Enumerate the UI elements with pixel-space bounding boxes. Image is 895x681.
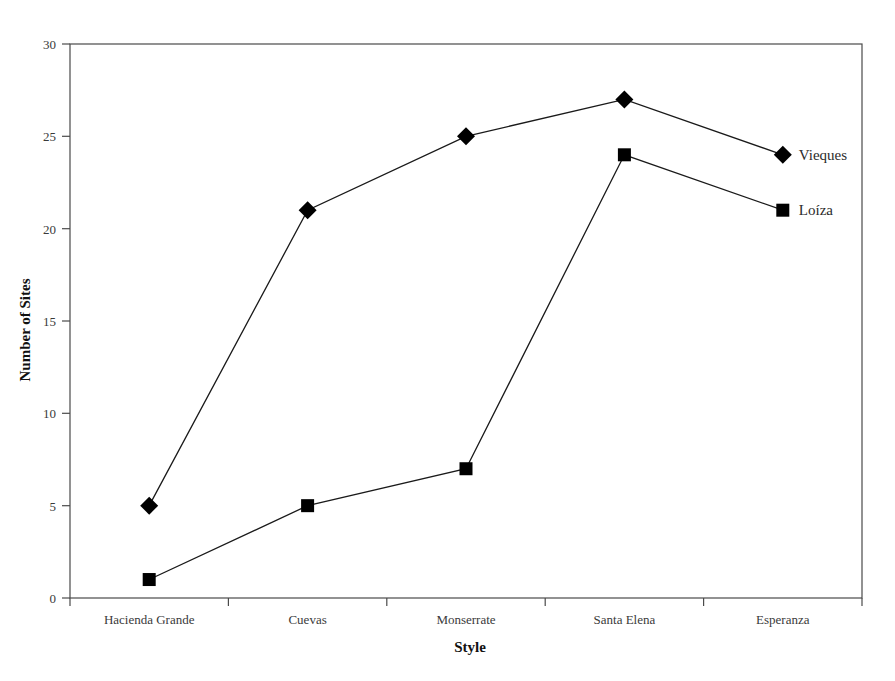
x-axis-title: Style — [454, 639, 486, 655]
y-axis-title: Number of Sites — [17, 278, 33, 381]
data-point-marker-diamond — [140, 497, 158, 515]
data-point-marker-square — [460, 462, 473, 475]
series-vieques — [140, 90, 792, 514]
series-line — [149, 155, 783, 580]
chart-legend: ViequesLoíza — [799, 147, 847, 218]
legend-label-vieques: Vieques — [799, 147, 847, 163]
x-axis-ticks — [70, 598, 862, 606]
x-tick-label: Monserrate — [436, 612, 495, 627]
y-tick-label: 0 — [50, 591, 57, 606]
data-point-marker-diamond — [299, 201, 317, 219]
series-line — [149, 99, 783, 505]
data-point-marker-square — [776, 204, 789, 217]
line-chart: 0 5 10 15 20 25 30 Number of Sites Hacie… — [0, 0, 895, 681]
y-tick-label: 15 — [43, 314, 56, 329]
series-layer — [140, 90, 792, 586]
y-axis-tick-labels: 0 5 10 15 20 25 30 — [43, 37, 56, 606]
data-point-marker-square — [143, 573, 156, 586]
data-point-marker-diamond — [774, 146, 792, 164]
x-tick-label: Cuevas — [288, 612, 326, 627]
data-point-marker-square — [618, 148, 631, 161]
data-point-marker-diamond — [457, 127, 475, 145]
data-point-marker-square — [301, 499, 314, 512]
x-tick-label: Hacienda Grande — [104, 612, 195, 627]
x-tick-label: Santa Elena — [594, 612, 656, 627]
x-axis-tick-labels: Hacienda Grande Cuevas Monserrate Santa … — [104, 612, 810, 627]
chart-figure: 0 5 10 15 20 25 30 Number of Sites Hacie… — [0, 0, 895, 681]
x-tick-label: Esperanza — [756, 612, 810, 627]
series-lo-za — [143, 148, 790, 586]
plot-frame — [70, 44, 862, 598]
y-axis-ticks — [62, 44, 70, 598]
y-tick-label: 25 — [43, 129, 56, 144]
data-point-marker-diamond — [615, 90, 633, 108]
y-tick-label: 5 — [50, 499, 57, 514]
legend-label-lo-za: Loíza — [799, 202, 833, 218]
y-tick-label: 30 — [43, 37, 56, 52]
y-tick-label: 20 — [43, 222, 56, 237]
y-tick-label: 10 — [43, 406, 56, 421]
